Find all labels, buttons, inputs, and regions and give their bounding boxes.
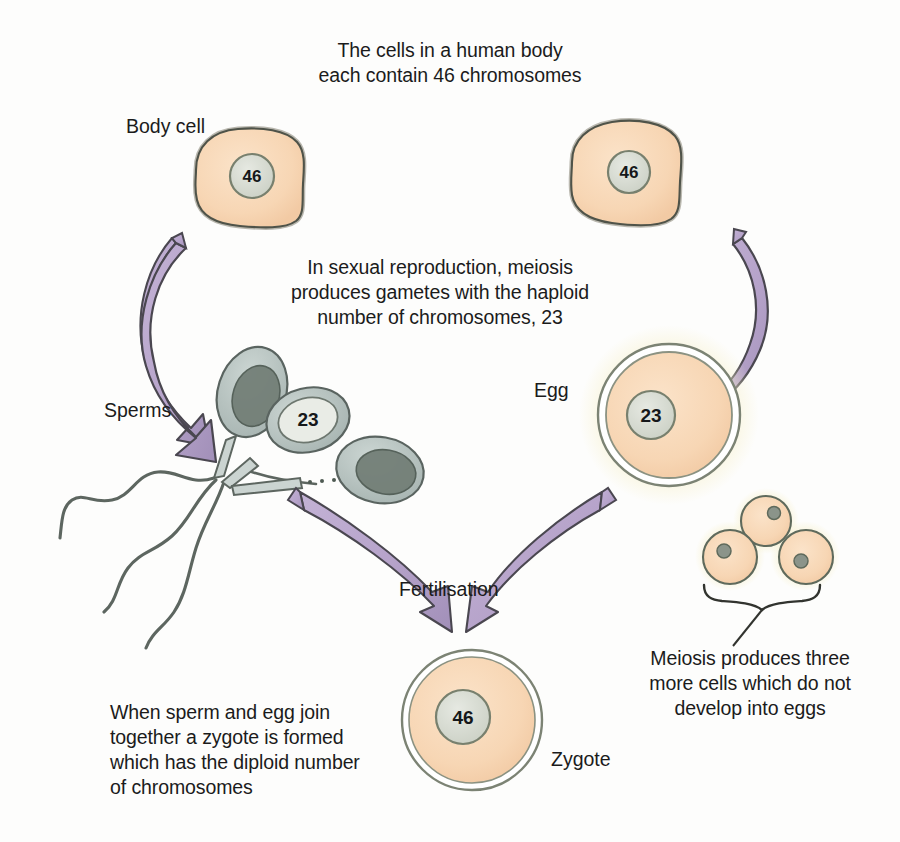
label-zygote: Zygote: [551, 748, 611, 770]
fertilisation-arrows: [288, 488, 616, 632]
nucleus-body-cell-right: [608, 151, 650, 193]
caption-middle: In sexual reproduction, meiosis produces…: [290, 255, 590, 330]
label-fertilisation: Fertilisation: [399, 578, 499, 600]
polar-bodies-group: [695, 488, 840, 646]
caption-bottom-left: When sperm and egg join together a zygot…: [110, 700, 410, 800]
arrow-fertilisation-left: [300, 492, 452, 632]
nucleus-body-cell-left: [230, 154, 274, 198]
body-cell-right: [571, 121, 681, 226]
zygote-cell: [402, 650, 542, 790]
arrow-fertilisation-right: [466, 492, 602, 632]
egg-cell: [579, 325, 759, 505]
caption-top: The cells in a human body each contain 4…: [300, 38, 600, 88]
nucleus-egg: [627, 391, 675, 439]
body-cell-left: [195, 128, 304, 227]
polar-bodies-leader: [733, 610, 762, 646]
polar-body-left: [703, 530, 757, 584]
arrow-meiosis-left: [140, 233, 216, 462]
label-sperms: Sperms: [104, 399, 171, 421]
nucleus-zygote: [436, 690, 490, 744]
polar-body-right: [779, 530, 833, 584]
label-body-cell: Body cell: [126, 115, 205, 137]
sperm-tails: [60, 470, 316, 648]
label-egg: Egg: [534, 379, 569, 401]
meiosis-fertilisation-diagram: The cells in a human body each contain 4…: [0, 0, 900, 842]
sperm-group: [60, 338, 429, 648]
caption-bottom-right: Meiosis produces three more cells which …: [610, 646, 890, 721]
